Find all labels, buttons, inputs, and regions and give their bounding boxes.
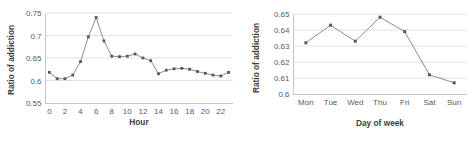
data-point — [354, 40, 357, 43]
data-point — [212, 74, 215, 77]
x-tick-label: 8 — [110, 107, 115, 116]
y-tick-label: 0.6 — [30, 77, 42, 86]
x-tick-label: 10 — [123, 107, 132, 116]
data-point — [188, 68, 191, 71]
data-point — [126, 55, 129, 58]
chart-day-of-week: Ratio of addiction 0.60.610.620.630.640.… — [245, 0, 475, 141]
data-point — [180, 67, 183, 70]
series-markers-dow — [304, 16, 455, 85]
y-tick-label: 0.65 — [274, 10, 290, 19]
x-tick-label: 2 — [63, 107, 68, 116]
data-point — [453, 81, 456, 84]
y-tick-labels-hour: 0.550.60.650.70.75 — [26, 9, 42, 108]
data-point — [149, 59, 152, 62]
data-point — [403, 30, 406, 33]
x-axis-title-hour: Hour — [129, 117, 149, 127]
data-point — [79, 60, 82, 63]
figure-panel: Ratio of addiction 0.550.60.650.70.75 02… — [0, 0, 475, 141]
y-tick-label: 0.62 — [274, 58, 290, 67]
data-point — [103, 40, 106, 43]
x-tick-label: 12 — [138, 107, 147, 116]
gridlines-dow — [294, 14, 467, 78]
data-point — [157, 72, 160, 75]
x-tick-label: Sun — [447, 98, 461, 107]
data-point — [64, 77, 67, 80]
data-point — [71, 74, 74, 77]
x-tick-label: 22 — [216, 107, 225, 116]
y-tick-label: 0.64 — [274, 26, 290, 35]
data-point — [110, 55, 113, 58]
data-point — [227, 71, 230, 74]
x-tick-labels-dow: MonTueWedThuFriSatSun — [298, 98, 461, 107]
chart-dow-svg: Ratio of addiction 0.60.610.620.630.640.… — [245, 0, 475, 141]
data-point — [134, 53, 137, 56]
x-tick-label: Fri — [400, 98, 410, 107]
data-point — [204, 72, 207, 75]
data-point — [87, 35, 90, 38]
data-point — [95, 16, 98, 19]
x-tick-label: 18 — [185, 107, 194, 116]
data-point — [219, 75, 222, 78]
y-tick-label: 0.75 — [26, 9, 42, 18]
x-tick-labels-hour: 0246810121416182022 — [47, 107, 226, 116]
x-axis-title-dow: Day of week — [356, 118, 404, 128]
data-point — [379, 16, 382, 19]
x-tick-label: 4 — [78, 107, 83, 116]
y-axis-title-hour: Ratio of addiction — [6, 25, 16, 95]
data-point — [428, 73, 431, 76]
gridlines-hour — [46, 13, 233, 81]
x-tick-label: Wed — [347, 98, 363, 107]
data-point — [196, 70, 199, 73]
y-tick-label: 0.63 — [274, 42, 290, 51]
chart-hour: Ratio of addiction 0.550.60.650.70.75 02… — [0, 0, 245, 141]
data-point — [304, 41, 307, 44]
x-tick-label: Sat — [423, 98, 436, 107]
y-axis-title-dow: Ratio of addiction — [251, 23, 261, 93]
y-tick-labels-dow: 0.60.610.620.630.640.65 — [274, 10, 290, 99]
data-point — [142, 57, 145, 60]
y-tick-label: 0.65 — [26, 54, 42, 63]
y-tick-label: 0.55 — [26, 99, 42, 108]
x-tick-label: 0 — [47, 107, 52, 116]
x-tick-label: 6 — [94, 107, 99, 116]
data-point — [56, 77, 59, 80]
y-tick-label: 0.7 — [30, 32, 42, 41]
x-tick-label: Thu — [373, 98, 387, 107]
y-tick-label: 0.6 — [278, 90, 290, 99]
x-tick-label: Mon — [298, 98, 314, 107]
x-tick-label: 14 — [154, 107, 163, 116]
x-tick-label: 16 — [170, 107, 179, 116]
x-tick-label: Tue — [324, 98, 338, 107]
y-tick-label: 0.61 — [274, 74, 290, 83]
data-point — [118, 55, 121, 58]
x-tick-label: 20 — [201, 107, 210, 116]
data-point — [329, 24, 332, 27]
chart-hour-svg: Ratio of addiction 0.550.60.650.70.75 02… — [0, 0, 245, 141]
series-line-hour — [49, 18, 228, 79]
data-point — [165, 69, 168, 72]
data-point — [48, 71, 51, 74]
series-line-dow — [306, 17, 454, 83]
data-point — [173, 67, 176, 70]
